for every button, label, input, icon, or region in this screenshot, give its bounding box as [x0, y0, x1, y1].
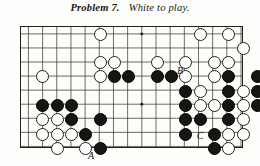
white-stone[interactable] — [237, 128, 250, 141]
white-stone[interactable] — [222, 128, 235, 141]
white-stone[interactable] — [94, 28, 107, 41]
black-stone[interactable] — [251, 85, 260, 98]
white-stone[interactable] — [36, 128, 49, 141]
white-stone[interactable] — [237, 113, 250, 126]
black-stone[interactable] — [51, 99, 64, 112]
white-stone[interactable] — [51, 142, 64, 155]
white-stone[interactable] — [194, 99, 207, 112]
point-label-a: A — [88, 151, 94, 161]
white-stone[interactable] — [237, 99, 250, 112]
white-stone[interactable] — [51, 113, 64, 126]
white-stone[interactable] — [222, 142, 235, 155]
problem-number-label: Problem 7. — [70, 2, 119, 13]
black-stone[interactable] — [79, 128, 92, 141]
white-stone[interactable] — [94, 56, 107, 69]
figure-title: Problem 7.White to play. — [0, 2, 260, 13]
black-stone[interactable] — [65, 99, 78, 112]
white-stone[interactable] — [194, 28, 207, 41]
black-stone[interactable] — [94, 142, 107, 155]
turn-instruction-label: White to play. — [129, 2, 190, 13]
black-stone[interactable] — [251, 99, 260, 112]
black-stone[interactable] — [179, 85, 192, 98]
go-board[interactable] — [20, 26, 243, 148]
white-stone[interactable] — [151, 56, 164, 69]
black-stone[interactable] — [94, 113, 107, 126]
point-label-c: C — [197, 131, 204, 141]
black-stone[interactable] — [179, 128, 192, 141]
white-stone[interactable] — [194, 85, 207, 98]
white-stone[interactable] — [237, 85, 250, 98]
black-stone[interactable] — [222, 85, 235, 98]
go-problem-figure: Problem 7.White to play. ABC — [0, 0, 260, 166]
white-stone[interactable] — [208, 99, 221, 112]
black-stone[interactable] — [251, 70, 260, 83]
white-stone[interactable] — [237, 42, 250, 55]
white-stone[interactable] — [222, 28, 235, 41]
white-stone[interactable] — [94, 70, 107, 83]
point-label-b: B — [177, 66, 183, 76]
black-stone[interactable] — [208, 142, 221, 155]
black-stone[interactable] — [194, 113, 207, 126]
black-stone[interactable] — [208, 128, 221, 141]
white-stone[interactable] — [108, 56, 121, 69]
white-stone[interactable] — [208, 56, 221, 69]
white-stone[interactable] — [65, 128, 78, 141]
white-stone[interactable] — [51, 128, 64, 141]
